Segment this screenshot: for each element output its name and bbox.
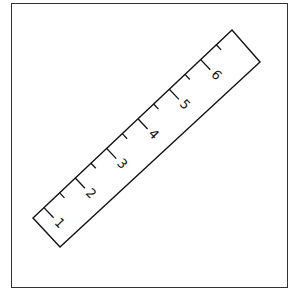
ruler-diagram: 123456	[0, 0, 296, 292]
ruler-body	[33, 30, 260, 247]
ruler	[33, 30, 260, 247]
